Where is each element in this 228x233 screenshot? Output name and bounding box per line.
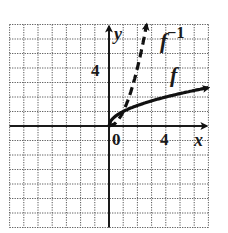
y-axis-label: y <box>112 24 123 44</box>
x-axis-label: x <box>193 130 203 150</box>
f-inverse-label: f−1 <box>160 24 184 53</box>
function-inverse-graph: 0 4 4 x y f−1 f <box>0 0 228 233</box>
labels: 0 4 4 x y f−1 f <box>91 24 203 150</box>
y-tick-label-4: 4 <box>91 61 100 80</box>
origin-label: 0 <box>112 130 121 149</box>
f-inverse-label-superscript: −1 <box>167 24 184 41</box>
curve-f <box>109 88 208 126</box>
x-tick-label-4: 4 <box>160 130 169 149</box>
axes <box>10 27 207 228</box>
curves <box>109 25 208 127</box>
f-label: f <box>170 62 180 87</box>
